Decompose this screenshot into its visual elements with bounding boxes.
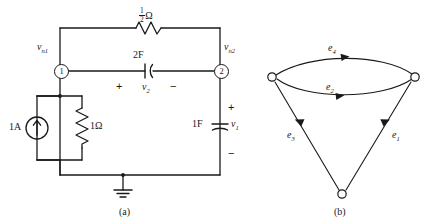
caption-panel-b: (b) [334,207,346,217]
figure-canvas [0,0,432,224]
current-source-arrow [33,120,40,135]
top-resistor-unit: Ω [145,10,152,21]
capacitor-1f-value: 1F [192,119,203,129]
capacitor-2f-value: 2F [133,50,144,60]
edge-e2-arrowhead [336,93,345,100]
capacitor-2f-plus-sign: + [116,81,122,92]
edge-e3-line [275,82,339,190]
graph-node-bottom [338,190,346,198]
shunt-resistor-value: 1Ω [90,121,102,131]
capacitor-1f-var-label: v1 [231,119,239,132]
current-source-value: 1A [9,122,21,132]
node-marker-1: 1 [54,64,69,79]
graph-node-right [411,73,419,81]
capacitor-2f-var-label: v2 [142,82,150,95]
edge-e2-line [277,79,412,95]
capacitor-2f-plates [145,64,153,78]
edge-e1-label: e1 [392,130,400,143]
ground-symbol [114,175,132,197]
capacitor-1f-minus-sign: − [228,148,234,159]
figure-root: 1 2 Ω vn1 1 vn2 2 2F + v2 − 1A 1Ω 1F v1 … [0,0,432,224]
edge-e3-arrowhead [295,119,305,126]
node2-voltage-label: vn2 [224,42,235,55]
graph-node-left [268,73,276,81]
node1-voltage-label: vn1 [37,42,48,55]
edge-e4-arrowhead [341,54,350,61]
caption-panel-a: (a) [119,207,130,217]
edge-e3-label: e3 [287,130,295,143]
edge-e4-line [276,58,412,75]
node-marker-2: 2 [214,64,229,79]
edge-e4-label: e4 [328,43,336,56]
edge-e1-line [346,82,411,190]
capacitor-1f-plus-sign: + [228,102,234,113]
top-resistor-value: 1 2 Ω [139,7,153,23]
half-fraction: 1 2 [139,7,145,23]
edge-e2-label: e2 [326,82,334,95]
capacitor-2f-minus-sign: − [170,81,176,92]
shunt-resistor-symbol [76,108,88,148]
top-branch-wire [60,22,220,34]
